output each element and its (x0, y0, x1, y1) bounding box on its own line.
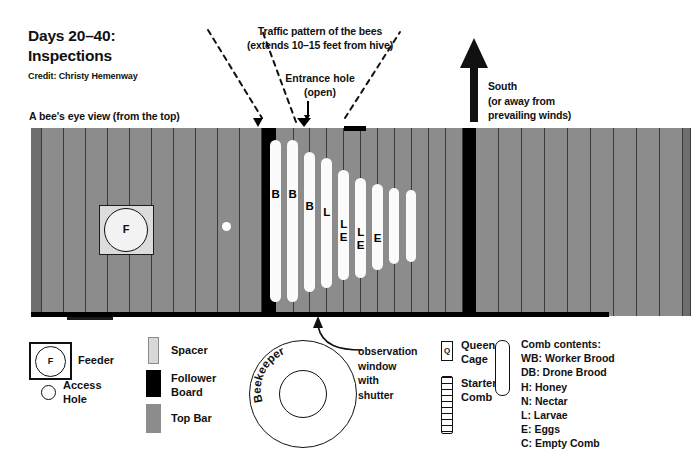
entrance-hole-left-icon (253, 118, 263, 127)
legend-access-line2: Hole (63, 392, 102, 406)
comb-content-letter: LE (335, 218, 352, 244)
legend-spacer-label: Spacer (171, 344, 208, 356)
comb-contents-list: WB: Worker BroodDB: Drone BroodH: HoneyN… (521, 351, 615, 450)
legend-queen-cage-line2: Cage (461, 352, 495, 366)
legend-queen-cage-letter: Q (442, 342, 452, 359)
top-bar (522, 128, 545, 316)
comb-contents-item: N: Nectar (521, 394, 615, 408)
hive-access-hole (222, 222, 231, 231)
legend-access-hole-swatch (41, 385, 56, 400)
legend-starter-comb-swatch (441, 376, 453, 434)
legend-starter-comb-label: Starter Comb (461, 376, 496, 404)
top-bar (476, 128, 499, 316)
legend-queen-cage-swatch: Q (441, 341, 453, 361)
comb-contents-title: Comb contents: (521, 337, 615, 351)
south-line2: (or away from (488, 94, 571, 109)
legend-follower-line2: Board (171, 385, 216, 399)
beekeeper-label: Beekeeper (251, 344, 286, 404)
legend-queen-cage-label: Queen Cage (461, 338, 495, 366)
top-bar (152, 128, 174, 316)
top-bar (660, 128, 683, 316)
comb-strip (287, 140, 298, 302)
observation-window-label: observation window with shutter (358, 344, 418, 402)
comb-contents-item: H: Honey (521, 380, 615, 394)
comb-strip (389, 188, 399, 264)
top-bar (42, 128, 64, 316)
top-bar (174, 128, 196, 316)
legend-feeder-circle: F (35, 346, 66, 377)
comb-content-letter: B (301, 200, 318, 213)
top-bar (545, 128, 568, 316)
comb-contents-legend: Comb contents: WB: Worker BroodDB: Drone… (521, 337, 615, 451)
hive-end-cap (683, 128, 691, 316)
hive-feeder-letter: F (105, 209, 147, 250)
comb-contents-item: L: Larvae (521, 408, 615, 422)
top-bar (429, 128, 446, 316)
comb-contents-item: DB: Drone Brood (521, 365, 615, 379)
top-bar (196, 128, 218, 316)
legend-follower-board-label: Follower Board (171, 371, 216, 399)
comb-content-letter: L (318, 206, 335, 219)
hive-end-cap (31, 128, 42, 316)
observation-window-shutter (344, 126, 366, 131)
legend-starter-comb-line2: Comb (461, 390, 496, 404)
beekeeper-label-arc: Beekeeper (249, 340, 357, 448)
top-bar (591, 128, 614, 316)
comb-strip (406, 190, 416, 262)
south-line3: prevailing winds) (488, 108, 571, 123)
comb-strip (304, 152, 315, 292)
legend-access-line1: Access (63, 378, 102, 392)
comb-contents-item: WB: Worker Brood (521, 351, 615, 365)
legend-queen-cage-line1: Queen (461, 338, 495, 352)
legend-top-bar-label: Top Bar (171, 412, 212, 424)
south-line1: South (488, 79, 571, 94)
observation-line4: shutter (358, 388, 418, 403)
legend-access-hole-label: Access Hole (63, 378, 102, 406)
top-bar (568, 128, 591, 316)
legend-comb-swatch (495, 340, 510, 396)
comb-strip (321, 158, 332, 288)
legend-follower-line1: Follower (171, 371, 216, 385)
comb-content-letter: LE (352, 226, 369, 252)
legend-starter-comb-line1: Starter (461, 376, 496, 390)
comb-strip (270, 140, 281, 302)
observation-line2: window (358, 359, 418, 374)
comb-content-letter: E (369, 232, 386, 245)
top-bar (64, 128, 86, 316)
legend-feeder-label: Feeder (78, 354, 114, 366)
observation-line3: with (358, 373, 418, 388)
legend-top-bar-swatch (146, 404, 161, 433)
top-bar (499, 128, 522, 316)
comb-content-letter: B (267, 188, 284, 201)
comb-strip (372, 184, 383, 270)
follower-board (463, 128, 476, 316)
legend-spacer-swatch (148, 337, 159, 364)
comb-content-letter: B (284, 188, 301, 201)
observation-line1: observation (358, 344, 418, 359)
top-bar (637, 128, 660, 316)
legend-follower-board-swatch (146, 370, 161, 397)
top-bar (614, 128, 637, 316)
south-direction-label: South (or away from prevailing winds) (488, 79, 571, 123)
entrance-hole-center-icon (297, 118, 311, 127)
hive-feeder-circle: F (104, 208, 148, 252)
comb-contents-item: C: Empty Comb (521, 436, 615, 450)
hive-bottom-rail-secondary (67, 317, 113, 320)
top-bar (240, 128, 262, 316)
top-bar (446, 128, 463, 316)
comb-contents-item: E: Eggs (521, 422, 615, 436)
legend-feeder-letter: F (36, 347, 65, 376)
